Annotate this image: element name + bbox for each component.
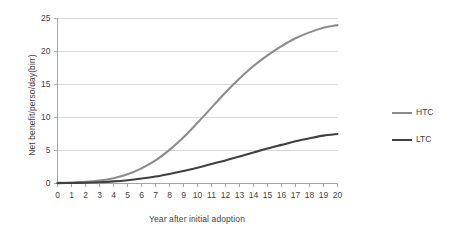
legend-label-htc: HTC <box>416 108 433 117</box>
legend-swatch-htc <box>392 112 412 114</box>
axis-lines <box>58 19 338 184</box>
tick-marks <box>54 19 338 188</box>
data-series <box>58 25 338 183</box>
legend-item-htc: HTC <box>392 104 433 121</box>
legend-swatch-ltc <box>392 139 412 141</box>
series-line-htc <box>58 25 338 183</box>
legend-label-ltc: LTC <box>416 135 431 144</box>
legend-item-ltc: LTC <box>392 131 433 148</box>
chart-container: Net benefit/perso/day(birr) Year after i… <box>0 0 462 237</box>
series-line-ltc <box>58 134 338 183</box>
chart-legend: HTC LTC <box>392 104 433 158</box>
